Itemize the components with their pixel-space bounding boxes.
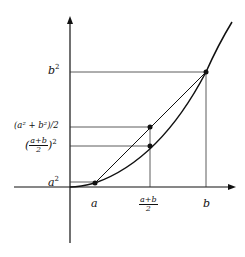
point-b: [204, 70, 209, 75]
label-avg-of-squares: (a² + b²)/2: [14, 121, 59, 130]
point-curve-mid: [148, 144, 153, 149]
label-a-squared: a2: [48, 176, 59, 188]
x-axis-arrow-icon: [228, 184, 236, 190]
parabola-curve: [70, 22, 232, 187]
label-b: b: [203, 198, 210, 209]
point-a: [93, 181, 98, 186]
label-a: a: [91, 198, 98, 209]
point-chord-mid: [148, 125, 153, 130]
guide-lines: [70, 72, 206, 187]
label-square-of-avg: (a+b2)2: [25, 137, 57, 154]
label-midpoint: a+b2: [139, 196, 158, 213]
y-axis-arrow-icon: [67, 16, 73, 24]
label-b-squared: b2: [48, 64, 60, 76]
